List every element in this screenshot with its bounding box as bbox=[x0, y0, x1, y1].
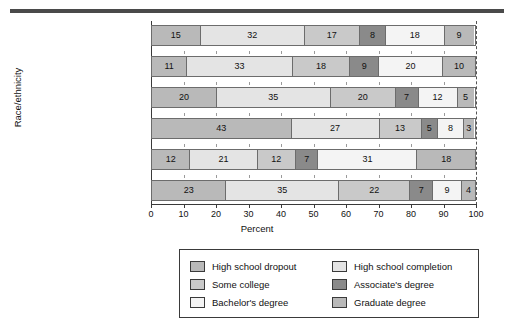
bar-segment: 9 bbox=[433, 181, 462, 200]
legend-item: High school dropout bbox=[190, 257, 326, 275]
grid-tick bbox=[314, 51, 315, 54]
bar-segment: 33 bbox=[187, 57, 293, 76]
bar-segment-value: 7 bbox=[304, 155, 309, 164]
bar-segment: 9 bbox=[445, 26, 474, 45]
x-tick-label: 90 bbox=[438, 209, 448, 219]
bar-segment-value: 9 bbox=[445, 186, 450, 195]
bar-segment: 18 bbox=[417, 150, 475, 169]
bar-segment: 35 bbox=[226, 181, 339, 200]
grid-tick bbox=[346, 113, 347, 116]
bar-segment-value: 43 bbox=[216, 124, 226, 133]
reference-line-100 bbox=[476, 21, 477, 205]
bar-segment-value: 10 bbox=[454, 62, 464, 71]
grid-tick bbox=[314, 144, 315, 147]
bar-row: 1532178189 bbox=[151, 25, 476, 46]
bar-segment: 21 bbox=[190, 150, 257, 169]
grid-tick bbox=[411, 82, 412, 85]
bar-segment-value: 8 bbox=[448, 124, 453, 133]
bar-segment: 18 bbox=[386, 26, 445, 45]
grid-tick bbox=[281, 144, 282, 147]
bar-segment-value: 31 bbox=[362, 155, 372, 164]
grid-tick bbox=[184, 144, 185, 147]
bar-segment: 12 bbox=[419, 88, 458, 107]
bar-segment: 22 bbox=[339, 181, 410, 200]
legend-swatch bbox=[190, 261, 205, 272]
bar-segment: 4 bbox=[462, 181, 475, 200]
grid-tick bbox=[411, 51, 412, 54]
grid-tick bbox=[379, 144, 380, 147]
legend-swatch bbox=[332, 297, 347, 308]
grid-tick bbox=[249, 51, 250, 54]
x-tick-label: 40 bbox=[276, 209, 286, 219]
bar-segment-value: 7 bbox=[419, 186, 424, 195]
legend-swatch bbox=[190, 279, 205, 290]
x-tick-label: 80 bbox=[406, 209, 416, 219]
bar-segment-value: 4 bbox=[466, 186, 471, 195]
bar-segment-value: 5 bbox=[427, 124, 432, 133]
bar-segment-value: 9 bbox=[362, 62, 367, 71]
grid-tick bbox=[184, 82, 185, 85]
grid-tick bbox=[249, 144, 250, 147]
x-tick bbox=[346, 204, 347, 208]
x-tick-label: 100 bbox=[468, 209, 483, 219]
bar-segment: 7 bbox=[296, 150, 318, 169]
bar-segment-value: 18 bbox=[316, 62, 326, 71]
x-tick-label: 0 bbox=[148, 209, 153, 219]
bar-segment: 32 bbox=[201, 26, 305, 45]
chart-figure: Race/ethnicity 1532178189113318920102035… bbox=[0, 0, 514, 332]
legend-item: Graduate degree bbox=[332, 293, 468, 311]
bar-segment: 5 bbox=[422, 119, 438, 138]
y-axis-title: Race/ethnicity bbox=[12, 43, 23, 153]
bar-segment: 7 bbox=[396, 88, 419, 107]
grid-tick bbox=[444, 175, 445, 178]
bar-segment-value: 18 bbox=[441, 155, 451, 164]
grid-tick bbox=[281, 175, 282, 178]
bar-segment-value: 7 bbox=[404, 93, 409, 102]
bar-segment-value: 8 bbox=[370, 31, 375, 40]
bar-segment-value: 32 bbox=[247, 31, 257, 40]
x-tick bbox=[476, 204, 477, 208]
grid-tick bbox=[216, 175, 217, 178]
grid-tick bbox=[249, 82, 250, 85]
bar-segment-value: 15 bbox=[171, 31, 181, 40]
grid-tick bbox=[281, 51, 282, 54]
bar-segment: 12 bbox=[152, 150, 190, 169]
x-tick bbox=[184, 204, 185, 208]
legend-item: Bachelor's degree bbox=[190, 293, 326, 311]
grid-tick bbox=[346, 175, 347, 178]
bar-segment-value: 12 bbox=[166, 155, 176, 164]
bar-row: 11331892010 bbox=[151, 56, 476, 77]
top-divider-rule bbox=[10, 9, 504, 13]
bar-segment: 18 bbox=[293, 57, 351, 76]
legend-item: High school completion bbox=[332, 257, 468, 275]
grid-tick bbox=[379, 51, 380, 54]
bar-segment-value: 11 bbox=[164, 62, 173, 71]
grid-tick bbox=[379, 82, 380, 85]
grid-tick bbox=[444, 144, 445, 147]
bar-segment-value: 35 bbox=[268, 93, 278, 102]
bar-segment-value: 33 bbox=[234, 62, 244, 71]
x-tick-label: 50 bbox=[308, 209, 318, 219]
grid-tick bbox=[444, 82, 445, 85]
grid-tick bbox=[314, 113, 315, 116]
legend-swatch bbox=[332, 261, 347, 272]
bar-segment-value: 3 bbox=[466, 124, 471, 133]
grid-tick bbox=[216, 113, 217, 116]
x-tick bbox=[379, 204, 380, 208]
legend-label: Some college bbox=[212, 279, 270, 290]
grid-tick bbox=[346, 144, 347, 147]
bar-segment-value: 27 bbox=[330, 124, 340, 133]
x-tick bbox=[444, 204, 445, 208]
bar-segment-value: 35 bbox=[277, 186, 287, 195]
legend-label: Bachelor's degree bbox=[212, 297, 288, 308]
bar-segment-value: 17 bbox=[327, 31, 337, 40]
x-tick-label: 70 bbox=[373, 209, 383, 219]
grid-tick bbox=[216, 144, 217, 147]
bar-row: 12211273118 bbox=[151, 149, 476, 170]
grid-tick bbox=[346, 82, 347, 85]
x-tick-label: 10 bbox=[178, 209, 188, 219]
x-tick-label: 60 bbox=[341, 209, 351, 219]
legend-swatch bbox=[190, 297, 205, 308]
x-tick bbox=[314, 204, 315, 208]
legend-label: High school dropout bbox=[212, 261, 297, 272]
